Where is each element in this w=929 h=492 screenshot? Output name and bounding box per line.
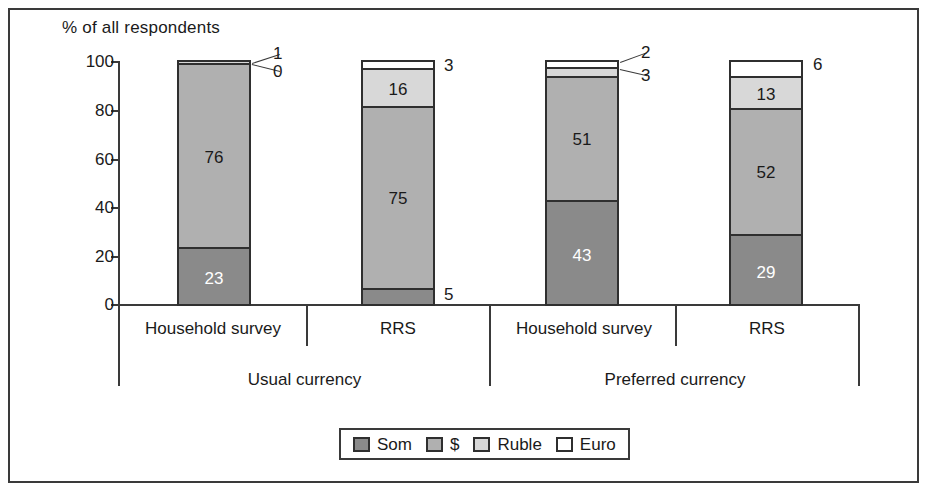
bar-segment-dollar-label: 75 [363, 190, 433, 207]
legend-swatch-ruble-icon [473, 437, 490, 452]
legend: Som $ Ruble Euro [339, 428, 630, 460]
callout-label-ruble-b0: 1 [273, 45, 282, 62]
category-tick-right-outer [858, 306, 860, 386]
y-tick-label-40: 40 [52, 199, 114, 216]
category-tick-left-outer [118, 306, 120, 386]
bar-segment-som[interactable] [361, 288, 435, 306]
callout-label-euro-b3: 6 [813, 56, 822, 73]
legend-item-euro[interactable]: Euro [556, 436, 616, 453]
callout-label-euro-b1: 3 [444, 57, 453, 74]
plot-area: 100 80 60 40 20 0 76 23 1 0 [0, 0, 929, 492]
bar-segment-dollar[interactable]: 52 [729, 108, 803, 236]
bar-segment-som[interactable]: 23 [177, 247, 251, 306]
bar-segment-ruble-label: 16 [363, 81, 433, 98]
bar-segment-som[interactable]: 29 [729, 234, 803, 306]
bar-segment-dollar-label: 76 [179, 149, 249, 166]
category-separator-2 [675, 306, 677, 346]
callout-label-ruble-b2: 3 [641, 67, 650, 84]
bar-segment-dollar-label: 51 [547, 131, 617, 148]
bar-segment-dollar[interactable]: 76 [177, 63, 251, 249]
y-axis-line [118, 62, 120, 306]
category-label-0: Household survey [128, 320, 298, 337]
callout-label-euro-b0: 0 [273, 63, 282, 80]
legend-swatch-euro-icon [556, 437, 573, 452]
legend-swatch-dollar-icon [426, 437, 443, 452]
legend-item-dollar[interactable]: $ [426, 436, 459, 453]
legend-label-ruble: Ruble [497, 436, 541, 453]
bar-rrs-usual[interactable]: 16 75 [361, 60, 435, 306]
bar-household-preferred[interactable]: 51 43 [545, 60, 619, 306]
y-tick-label-60: 60 [52, 151, 114, 168]
y-tick-label-100: 100 [52, 53, 114, 70]
bar-segment-som-label: 43 [547, 247, 617, 264]
category-label-3: RRS [684, 320, 850, 337]
bar-segment-som[interactable]: 43 [545, 200, 619, 306]
bar-household-usual[interactable]: 76 23 [177, 60, 251, 306]
legend-label-euro: Euro [580, 436, 616, 453]
y-tick-label-80: 80 [52, 102, 114, 119]
callout-label-euro-b2: 2 [641, 44, 650, 61]
chart-figure: % of all respondents 100 80 60 40 20 0 7… [0, 0, 929, 492]
category-separator-group [489, 306, 491, 386]
group-label-usual-currency: Usual currency [128, 371, 481, 388]
bar-segment-ruble[interactable]: 13 [729, 76, 803, 110]
legend-label-dollar: $ [450, 436, 459, 453]
bar-segment-som-label: 29 [731, 264, 801, 281]
bar-segment-dollar-label: 52 [731, 164, 801, 181]
bar-segment-som-label: 23 [179, 270, 249, 287]
y-tick-label-0: 0 [52, 296, 114, 313]
legend-item-ruble[interactable]: Ruble [473, 436, 541, 453]
y-tick-label-20: 20 [52, 248, 114, 265]
legend-swatch-som-icon [353, 437, 370, 452]
bar-rrs-preferred[interactable]: 13 52 29 [729, 60, 803, 306]
group-label-preferred-currency: Preferred currency [500, 371, 850, 388]
callout-label-som-b1: 5 [444, 286, 453, 303]
category-label-2: Household survey [500, 320, 668, 337]
category-separator-1 [306, 306, 308, 346]
bar-segment-ruble-label: 13 [731, 86, 801, 103]
bar-segment-dollar[interactable]: 75 [361, 106, 435, 290]
bar-segment-ruble[interactable]: 16 [361, 68, 435, 108]
legend-item-som[interactable]: Som [353, 436, 412, 453]
category-label-1: RRS [315, 320, 481, 337]
legend-label-som: Som [377, 436, 412, 453]
bar-segment-dollar[interactable]: 51 [545, 76, 619, 202]
